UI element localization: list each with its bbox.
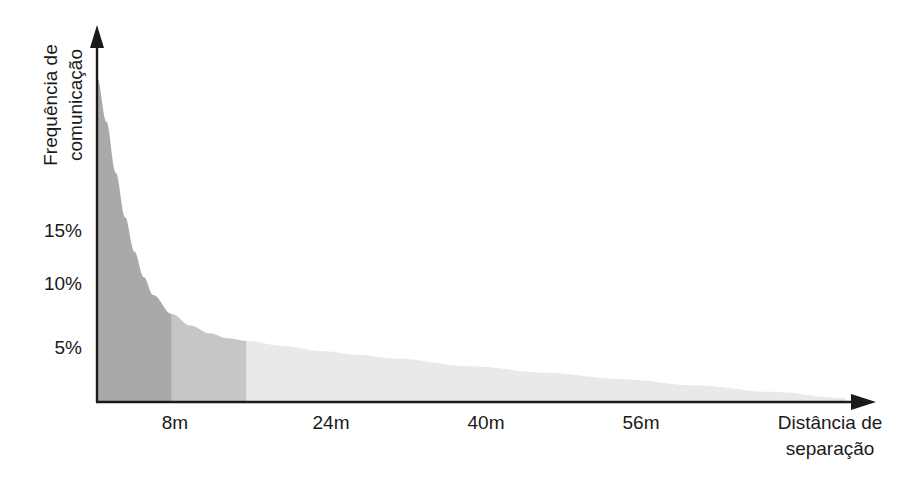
x-axis-title-line-1: Distância de bbox=[750, 410, 910, 436]
area-band-middle bbox=[172, 314, 247, 402]
chart-plot-area bbox=[0, 0, 915, 481]
area-band-near bbox=[97, 77, 172, 402]
y-axis-title-line-1: Frequência de bbox=[38, 5, 63, 205]
x-tick-label-40m: 40m bbox=[451, 412, 521, 434]
x-tick-label-24m: 24m bbox=[296, 412, 366, 434]
communication-frequency-chart: 15% 10% 5% 8m 24m 40m 56m Frequência de … bbox=[0, 0, 915, 481]
y-tick-label-10: 10% bbox=[20, 273, 82, 295]
area-bands bbox=[97, 77, 845, 402]
x-axis-arrow-icon bbox=[851, 394, 876, 410]
area-band-far bbox=[247, 341, 845, 402]
y-tick-label-5: 5% bbox=[20, 337, 82, 359]
x-tick-label-8m: 8m bbox=[140, 412, 210, 434]
y-axis-title: Frequência de comunicação bbox=[38, 5, 88, 205]
y-axis-arrow-icon bbox=[90, 25, 104, 48]
x-tick-label-56m: 56m bbox=[606, 412, 676, 434]
y-axis-title-line-2: comunicação bbox=[63, 5, 88, 205]
y-tick-label-15: 15% bbox=[20, 220, 82, 242]
x-axis-title-line-2: separação bbox=[750, 436, 910, 462]
x-axis-title: Distância de separação bbox=[750, 410, 910, 462]
